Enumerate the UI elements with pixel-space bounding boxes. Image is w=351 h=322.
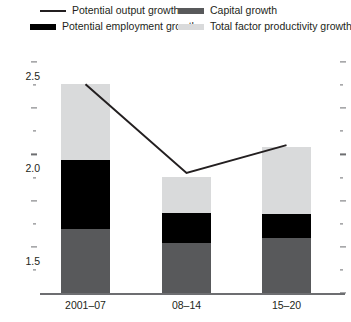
y-axis-tick-mark-right — [340, 154, 346, 155]
y-axis-minor-tick-mark — [33, 85, 36, 86]
legend-item-capital-growth: Capital growth — [178, 5, 277, 16]
legend-swatch-black-icon — [30, 24, 56, 30]
y-axis-tick-mark-right — [340, 246, 346, 247]
x-axis-line — [40, 293, 345, 295]
legend-label-potential-output-growth: Potential output growth — [72, 5, 179, 16]
y-axis-tick-mark — [31, 61, 37, 62]
y-axis-tick-mark-right — [340, 61, 346, 62]
y-axis-tick-mark — [31, 246, 37, 247]
legend-line-marker-icon — [40, 10, 66, 12]
y-axis-minor-tick-mark — [33, 131, 36, 132]
bar-segment — [162, 177, 211, 213]
bar-segment — [61, 84, 110, 160]
legend-item-potential-employment-growth: Potential employment growth — [30, 21, 197, 32]
x-axis-tick-label: 15–20 — [240, 300, 333, 311]
bar-segment — [262, 214, 311, 237]
legend-item-potential-output-growth: Potential output growth — [40, 5, 179, 16]
legend-swatch-lightgray-icon — [178, 24, 204, 30]
y-axis-minor-tick-mark — [33, 223, 36, 224]
legend-swatch-darkgray-icon — [178, 8, 204, 14]
chart-container: Potential output growth Potential employ… — [0, 0, 351, 322]
y-axis-minor-tick-mark-right — [340, 85, 343, 86]
legend-label-total-factor-productivity-growth: Total factor productivity growth — [210, 21, 351, 32]
y-axis-tick-label: 2.0 — [12, 163, 40, 174]
y-axis-minor-tick-mark-right — [340, 223, 343, 224]
y-axis-minor-tick-mark — [33, 177, 36, 178]
y-axis-tick-label: 2.5 — [12, 71, 40, 82]
legend-label-capital-growth: Capital growth — [210, 5, 277, 16]
legend-item-total-factor-productivity-growth: Total factor productivity growth — [178, 21, 351, 32]
y-axis-tick-mark — [31, 108, 37, 109]
bar-segment — [262, 147, 311, 214]
bar-segment — [61, 160, 110, 229]
plot-area: 0.00.51.01.52.02.5 2001–0708–1415–20 — [0, 48, 351, 322]
y-axis-tick-label: 1.5 — [12, 255, 40, 266]
y-axis-tick-mark — [31, 200, 37, 201]
bar-segment — [162, 213, 211, 243]
x-axis-tick-label: 08–14 — [140, 300, 233, 311]
stacked-bar — [61, 84, 110, 293]
bar-segment — [262, 238, 311, 293]
y-axis-minor-tick-mark-right — [340, 177, 343, 178]
bar-segment — [162, 243, 211, 293]
x-axis-tick-label: 2001–07 — [39, 300, 132, 311]
y-axis-tick-mark-right — [340, 200, 346, 201]
y-axis-minor-tick-mark-right — [340, 131, 343, 132]
y-axis-tick-mark — [31, 154, 37, 155]
chart-legend: Potential output growth Potential employ… — [0, 0, 351, 48]
y-axis-minor-tick-mark-right — [340, 269, 343, 270]
stacked-bar — [262, 147, 311, 293]
bar-segment — [61, 229, 110, 293]
stacked-bar — [162, 177, 211, 293]
y-axis-tick-mark-right — [340, 292, 346, 293]
y-axis-tick-mark-right — [340, 108, 346, 109]
y-axis-minor-tick-mark — [33, 269, 36, 270]
